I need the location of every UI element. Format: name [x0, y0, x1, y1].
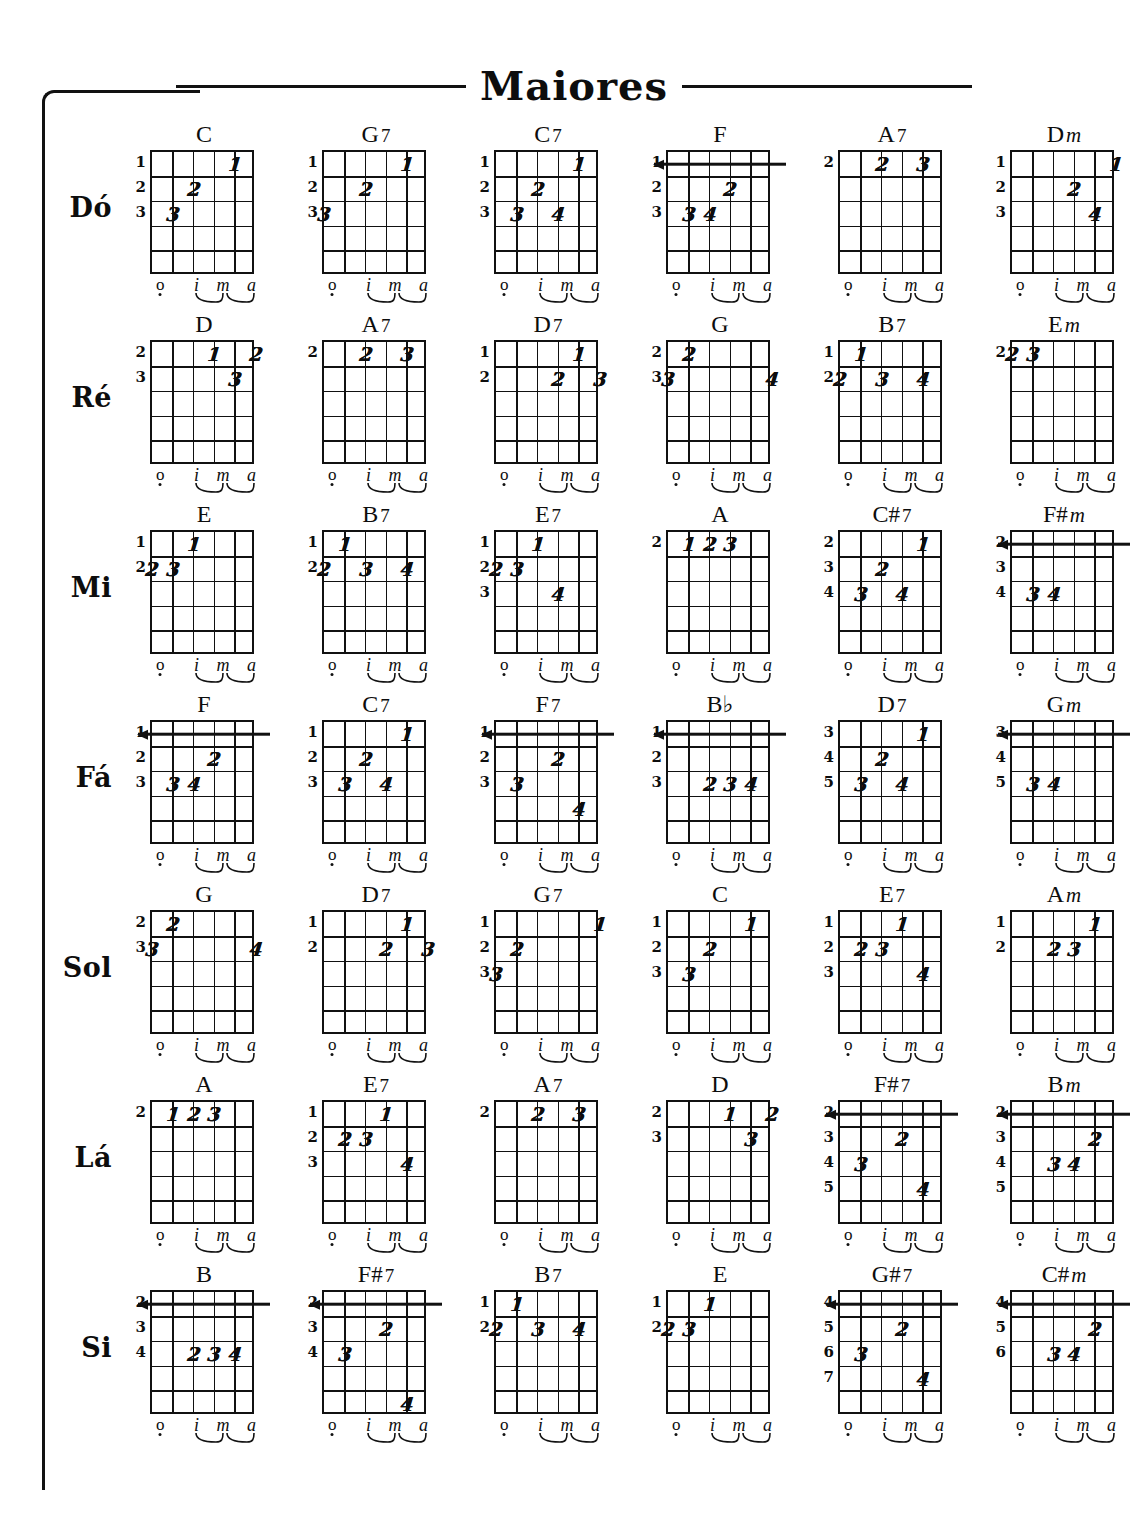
fretboard-grid: 234: [838, 1100, 942, 1224]
chord-root: B: [1047, 1071, 1063, 1097]
chord-diagram[interactable]: A2123oima: [634, 500, 806, 678]
finger-marker: 1: [379, 1105, 394, 1124]
fret-number: 3: [308, 1320, 318, 1335]
chord-diagram[interactable]: F#m23434oima: [978, 500, 1148, 678]
finger-braces: [538, 863, 600, 874]
finger-marker: 4: [764, 370, 779, 389]
fret-number: 5: [824, 1179, 834, 1194]
chord-diagram[interactable]: G#74567234oima: [806, 1260, 978, 1438]
hand-position-legend: oima: [494, 846, 598, 876]
chord-diagram[interactable]: A2123oima: [118, 1070, 290, 1248]
fretboard-area: 121234oima: [290, 528, 462, 678]
fretboard-area: 2123oima: [634, 528, 806, 678]
fretboard-area: 12123oima: [118, 528, 290, 678]
chord-suffix: 7: [550, 125, 562, 146]
fret-line: [496, 606, 596, 608]
thumb-label: o: [156, 1226, 165, 1243]
chord-diagram[interactable]: C123123oima: [634, 880, 806, 1058]
chord-accidental: ♭: [723, 692, 734, 717]
chord-diagram[interactable]: E71231234oima: [806, 880, 978, 1058]
hand-position-legend: oima: [322, 1226, 426, 1256]
finger-label-i: i: [710, 1226, 715, 1244]
fret-line: [1012, 366, 1112, 368]
chord-diagram[interactable]: D23123oima: [118, 310, 290, 488]
chord-diagram[interactable]: E71231234oima: [290, 1070, 462, 1248]
chord-diagram[interactable]: F123234oima: [634, 120, 806, 298]
finger-label-m: m: [905, 1036, 918, 1054]
fret-line: [840, 416, 940, 418]
fret-number: 7: [824, 1369, 834, 1384]
finger-marker: 3: [509, 560, 524, 579]
fret-line: [840, 1316, 940, 1318]
chord-diagram[interactable]: Am12123oima: [978, 880, 1148, 1058]
chord-diagram[interactable]: D712123oima: [290, 880, 462, 1058]
finger-braces: [538, 1243, 600, 1254]
thumb-symbol: o: [844, 655, 853, 674]
chord-diagram[interactable]: D73451234oima: [806, 690, 978, 868]
chord-diagram[interactable]: C71231234oima: [462, 120, 634, 298]
chord-diagram[interactable]: Gm34534oima: [978, 690, 1148, 868]
string-line: [902, 342, 904, 462]
chord-diagram[interactable]: Dm123124oima: [978, 120, 1148, 298]
chord-name: A7: [290, 310, 462, 338]
chord-root: E: [363, 1071, 378, 1097]
chord-diagram[interactable]: C#72341234oima: [806, 500, 978, 678]
chord-diagram[interactable]: B7121234oima: [462, 1260, 634, 1438]
chord-diagram[interactable]: B234234oima: [118, 1260, 290, 1438]
chord-diagram[interactable]: G7123123oima: [290, 120, 462, 298]
chord-diagram[interactable]: E71231234oima: [462, 500, 634, 678]
barre-indicator: [654, 733, 786, 736]
fret-line: [496, 176, 596, 178]
chord-diagram[interactable]: D23123oima: [634, 1070, 806, 1248]
chord-diagram[interactable]: A7223oima: [290, 310, 462, 488]
chord-diagram[interactable]: F#7234234oima: [290, 1260, 462, 1438]
chord-name: A7: [806, 120, 978, 148]
finger-label-a: a: [935, 846, 944, 864]
finger-labels: ima: [882, 1226, 944, 1244]
finger-braces: [194, 863, 256, 874]
thumb-dot: [1019, 293, 1022, 296]
hand-position-legend: oima: [1010, 846, 1114, 876]
chord-diagram[interactable]: Em223oima: [978, 310, 1148, 488]
chord-diagram[interactable]: C71231234oima: [290, 690, 462, 868]
chord-diagram[interactable]: Bm2345234oima: [978, 1070, 1148, 1248]
hand-position-legend: oima: [322, 656, 426, 686]
chord-diagram[interactable]: F7123234oima: [462, 690, 634, 868]
chord-diagram[interactable]: F#72345234oima: [806, 1070, 978, 1248]
fret-number: 2: [824, 940, 834, 955]
fret-line: [1012, 936, 1112, 938]
chord-diagram[interactable]: A7223oima: [462, 1070, 634, 1248]
finger-label-m: m: [905, 656, 918, 674]
fret-line: [324, 201, 424, 203]
chord-diagram[interactable]: G7123123oima: [462, 880, 634, 1058]
thumb-label: o: [500, 466, 509, 483]
fret-number: 3: [652, 205, 662, 220]
fret-line: [496, 1200, 596, 1202]
chord-diagram[interactable]: A7223oima: [806, 120, 978, 298]
chord-diagram[interactable]: B7121234oima: [290, 500, 462, 678]
chord-root: A: [1047, 881, 1064, 907]
chord-diagram[interactable]: C123123oima: [118, 120, 290, 298]
chord-diagram[interactable]: C#m456234oima: [978, 1260, 1148, 1438]
chord-diagram[interactable]: F123234oima: [118, 690, 290, 868]
fretboard-grid: 123: [150, 340, 254, 464]
fret-number: 2: [996, 940, 1006, 955]
chord-group: A2123oimaE71231234oimaA7223oimaD23123oim…: [118, 1070, 1148, 1248]
chord-diagram[interactable]: D712123oima: [462, 310, 634, 488]
finger-labels: ima: [710, 466, 772, 484]
hand-position-legend: oima: [494, 1036, 598, 1066]
barre-indicator: [998, 543, 1130, 546]
chord-diagram[interactable]: B♭123234oima: [634, 690, 806, 868]
fret-number: 4: [996, 1155, 1006, 1170]
chord-diagram[interactable]: B7121234oima: [806, 310, 978, 488]
chord-diagram[interactable]: E12123oima: [634, 1260, 806, 1438]
hand-position-legend: oima: [150, 846, 254, 876]
chord-diagram[interactable]: E12123oima: [118, 500, 290, 678]
chord-diagram[interactable]: G23234oima: [634, 310, 806, 488]
fretboard-area: 223oima: [290, 338, 462, 488]
thumb-label: o: [672, 1226, 681, 1243]
chord-diagram[interactable]: G23234oima: [118, 880, 290, 1058]
finger-marker: 4: [248, 940, 263, 959]
string-line: [516, 1102, 518, 1222]
chord-root: D: [195, 311, 212, 337]
